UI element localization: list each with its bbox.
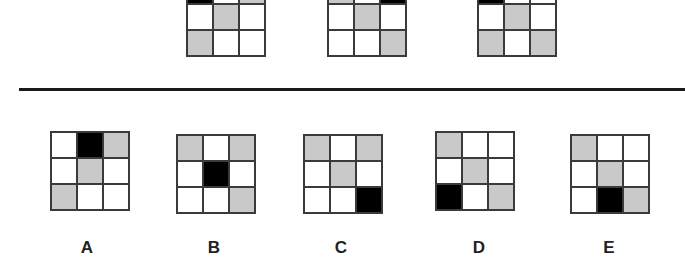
cell-white (204, 188, 228, 212)
option-d-label[interactable]: D (464, 238, 494, 258)
cell-white (329, 31, 353, 55)
cell-grey (52, 185, 76, 209)
cell-black (78, 133, 102, 157)
cell-grey (214, 5, 238, 29)
separator-line (19, 88, 685, 91)
cell-white (230, 162, 254, 186)
cell-white (463, 185, 487, 209)
cell-white (489, 133, 513, 157)
option-c-grid[interactable] (303, 134, 383, 214)
cell-grey (230, 188, 254, 212)
cell-black (598, 188, 622, 212)
cell-grey (178, 136, 202, 160)
cell-grey (479, 31, 503, 55)
cell-white (572, 188, 596, 212)
cell-white (598, 136, 622, 160)
cell-white (381, 5, 405, 29)
option-d-grid[interactable] (435, 131, 515, 211)
cell-grey (624, 188, 648, 212)
cell-grey (437, 133, 461, 157)
cell-white (305, 162, 329, 186)
option-a-grid[interactable] (50, 131, 130, 211)
cell-white (624, 162, 648, 186)
cell-grey (505, 5, 529, 29)
cell-white (355, 31, 379, 55)
cell-white (624, 136, 648, 160)
cell-grey (230, 136, 254, 160)
cell-white (240, 5, 264, 29)
cell-white (178, 188, 202, 212)
cell-white (531, 0, 555, 3)
cell-white (329, 5, 353, 29)
cell-white (531, 5, 555, 29)
option-e-grid[interactable] (570, 134, 650, 214)
option-b-label[interactable]: B (199, 238, 229, 258)
cell-white (305, 188, 329, 212)
cell-grey (331, 162, 355, 186)
cell-white (331, 188, 355, 212)
cell-white (463, 133, 487, 157)
cell-grey (188, 31, 212, 55)
cell-white (104, 185, 128, 209)
cell-white (572, 162, 596, 186)
cell-grey (598, 162, 622, 186)
cell-white (505, 0, 529, 3)
cell-grey (572, 136, 596, 160)
sequence-grid-3 (477, 0, 557, 57)
cell-grey (489, 185, 513, 209)
cell-white (178, 162, 202, 186)
cell-grey (381, 31, 405, 55)
option-c-label[interactable]: C (326, 238, 356, 258)
cell-grey (78, 159, 102, 183)
cell-grey (305, 136, 329, 160)
cell-grey (355, 5, 379, 29)
cell-black (381, 0, 405, 3)
sequence-grid-2 (327, 0, 407, 57)
cell-white (52, 159, 76, 183)
cell-white (204, 136, 228, 160)
cell-white (331, 136, 355, 160)
cell-white (479, 5, 503, 29)
cell-black (188, 0, 212, 3)
sequence-grid-1 (186, 0, 266, 57)
cell-grey (463, 159, 487, 183)
cell-grey (104, 133, 128, 157)
cell-white (355, 0, 379, 3)
option-a-label[interactable]: A (72, 238, 102, 258)
option-e-label[interactable]: E (594, 238, 624, 258)
option-b-grid[interactable] (176, 134, 256, 214)
cell-white (188, 5, 212, 29)
cell-black (204, 162, 228, 186)
cell-white (104, 159, 128, 183)
cell-white (437, 159, 461, 183)
cell-grey (329, 0, 353, 3)
cell-grey (357, 136, 381, 160)
cell-white (52, 133, 76, 157)
cell-white (489, 159, 513, 183)
cell-grey (531, 31, 555, 55)
cell-grey (240, 0, 264, 3)
cell-white (214, 0, 238, 3)
cell-white (214, 31, 238, 55)
cell-white (240, 31, 264, 55)
cell-black (479, 0, 503, 3)
cell-black (357, 188, 381, 212)
cell-white (357, 162, 381, 186)
cell-white (505, 31, 529, 55)
cell-white (78, 185, 102, 209)
cell-black (437, 185, 461, 209)
